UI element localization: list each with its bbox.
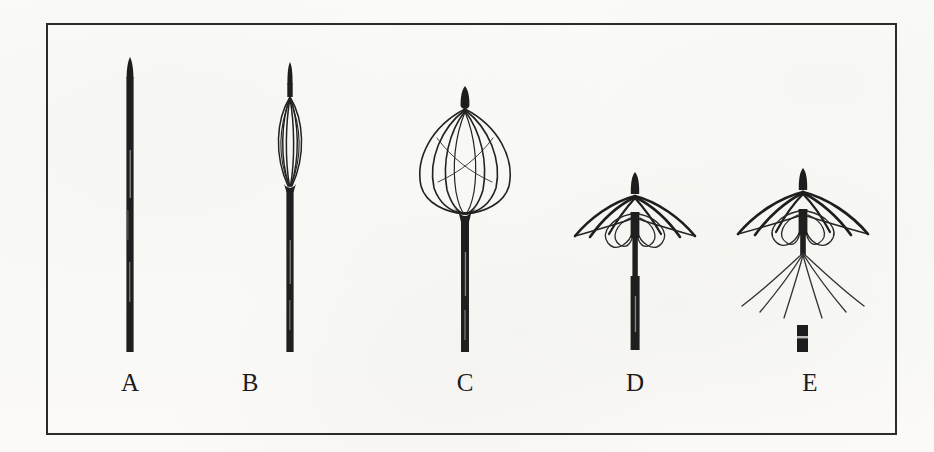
- panel-b-shaft-highlight-lower: [289, 300, 290, 330]
- panel-b-tip: [287, 62, 292, 84]
- panel-label-a: A: [110, 370, 150, 395]
- panel-e-detached-tip-body: [797, 325, 808, 352]
- panel-d-shaft-highlight: [635, 296, 636, 332]
- panel-c-wire-basket: [420, 109, 510, 214]
- panel-e-leg-3: [760, 254, 803, 312]
- panel-e-leg-6: [803, 255, 822, 318]
- panel-e-legs: [742, 253, 864, 318]
- panel-a-tip: [127, 57, 134, 78]
- panel-d-device: [575, 172, 695, 350]
- panel-c-device: [420, 86, 510, 352]
- panel-c-wire-1: [420, 109, 465, 214]
- panel-label-d: D: [615, 370, 655, 395]
- panel-d-top-hub: [631, 172, 639, 194]
- panel-c-shaft-highlight-lower: [464, 310, 465, 340]
- panel-b-wire-6: [290, 98, 294, 186]
- panel-label-b: B: [230, 370, 270, 395]
- panel-e-detached-tip: [797, 325, 808, 352]
- panel-b-wire-spindle: [278, 97, 301, 186]
- panel-a-device: [126, 57, 133, 352]
- panel-e-leg-5: [784, 255, 803, 318]
- panel-a-shaft-highlight-lower: [129, 262, 130, 302]
- panel-d-loop-3: [615, 218, 633, 246]
- panel-b-shaft-highlight: [290, 240, 291, 284]
- panel-a-shaft-highlight-mid: [127, 210, 128, 240]
- panel-b-upper-shaft: [287, 83, 292, 97]
- panel-c-apex-hub: [461, 86, 470, 109]
- panel-b-device: [278, 62, 301, 352]
- panel-c-wire-2: [465, 109, 510, 214]
- panel-d-collar: [631, 212, 640, 238]
- panel-label-c: C: [445, 370, 485, 395]
- panel-e-detached-tip-gap: [797, 336, 808, 338]
- panel-d-loop-4: [637, 218, 655, 246]
- figure-root: A B C D E: [0, 0, 934, 452]
- panel-a-shaft-highlight: [130, 150, 131, 198]
- panel-c-shaft-highlight: [465, 252, 466, 296]
- panel-e-top-hub: [799, 168, 807, 190]
- panel-b-wire-5: [286, 98, 290, 186]
- panel-d-arm-3: [590, 197, 635, 237]
- panel-label-e: E: [790, 370, 830, 395]
- panel-e-leg-2: [803, 253, 864, 306]
- panel-e-leg-1: [742, 253, 803, 306]
- panel-e-collar: [799, 209, 808, 235]
- panel-d-arm-4: [635, 197, 680, 237]
- panel-d-upper-shaft: [632, 236, 637, 280]
- panel-e-device: [738, 168, 868, 352]
- panel-e-leg-4: [803, 254, 846, 312]
- panel-e-lower-collar: [800, 233, 806, 255]
